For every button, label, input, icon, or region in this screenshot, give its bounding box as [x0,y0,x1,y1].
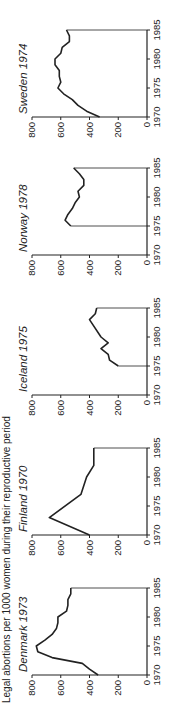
y-tick-label: 600 [55,122,66,138]
x-tick-label: 1975 [151,355,162,376]
x-tick-label: 1985 [151,19,162,40]
y-tick-label: 200 [112,540,123,556]
chart-title: Legal abortions per 1000 women during th… [1,416,12,703]
y-tick-label: 600 [55,260,66,276]
x-tick-label: 1975 [151,635,162,656]
data-line [90,308,119,366]
data-line [65,168,84,226]
y-tick-label: 200 [112,260,123,276]
y-tick-label: 600 [55,400,66,416]
panel-title: Iceland 1975 [17,326,29,392]
y-tick-label: 800 [26,260,37,276]
y-tick-label: 800 [26,680,37,696]
x-tick-label: 1980 [151,326,162,347]
data-line [49,448,94,535]
panel-title: Norway 1978 [17,184,29,252]
panel-iceland: Iceland 19750200400600800197019751980198… [17,297,162,415]
x-tick-label: 1975 [151,77,162,98]
panel-finland: Finland 19700200400600800197019751980198… [17,437,162,555]
x-tick-label: 1975 [151,215,162,236]
y-tick-label: 400 [84,540,95,556]
y-tick-label: 400 [84,400,95,416]
x-tick-label: 1980 [151,48,162,69]
x-tick-label: 1970 [151,524,162,545]
y-tick-label: 600 [55,680,66,696]
rotated-chart-container: Legal abortions per 1000 women during th… [0,0,176,707]
y-tick-label: 800 [26,122,37,138]
y-tick-label: 200 [112,400,123,416]
x-tick-label: 1980 [151,466,162,487]
x-tick-label: 1985 [151,297,162,318]
x-tick-label: 1980 [151,606,162,627]
panel-title: Denmark 1973 [17,596,29,672]
x-tick-label: 1970 [151,106,162,127]
y-tick-label: 400 [84,122,95,138]
x-tick-label: 1970 [151,244,162,265]
y-tick-label: 800 [26,400,37,416]
data-line [55,30,100,117]
x-tick-label: 1970 [151,384,162,405]
y-tick-label: 800 [26,540,37,556]
y-tick-label: 200 [112,680,123,696]
panel-sweden: Sweden 197402004006008001970197519801985 [17,19,162,137]
panel-title: Finland 1970 [17,465,29,532]
y-tick-label: 400 [84,260,95,276]
y-tick-label: 400 [84,680,95,696]
x-tick-label: 1985 [151,157,162,178]
y-tick-label: 600 [55,540,66,556]
panel-title: Sweden 1974 [17,44,29,114]
x-tick-label: 1985 [151,437,162,458]
panel-norway: Norway 197802004006008001970197519801985 [17,157,162,275]
x-tick-label: 1985 [151,577,162,598]
data-line [36,588,98,675]
x-tick-label: 1970 [151,664,162,685]
panel-denmark: Denmark 19730200400600800197019751980198… [17,577,162,695]
y-tick-label: 200 [112,122,123,138]
x-tick-label: 1975 [151,495,162,516]
small-multiples-line-chart: Legal abortions per 1000 women during th… [0,0,176,707]
x-tick-label: 1980 [151,186,162,207]
